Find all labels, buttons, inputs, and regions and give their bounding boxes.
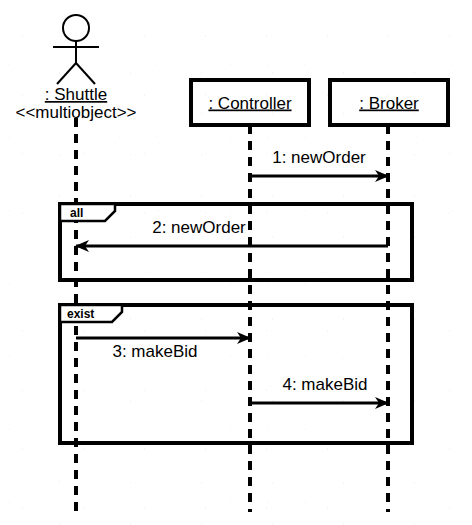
- participant-stereotype-shuttle: <<multiobject>>: [16, 103, 137, 122]
- fragment-label-all: all: [70, 206, 83, 220]
- participant-box-broker[interactable]: : Broker: [330, 80, 448, 125]
- message-label-3: 3: makeBid: [112, 342, 197, 361]
- message-label-2: 2: newOrder: [152, 218, 246, 237]
- fragment-label-exist: exist: [67, 307, 94, 321]
- participant-label-shuttle: : Shuttle: [45, 85, 107, 104]
- fragment-tab-all: [60, 204, 115, 221]
- diagram-canvas: : Shuttle <<multiobject>> : Controller :…: [0, 0, 472, 525]
- participant-box-controller[interactable]: : Controller: [191, 80, 309, 125]
- message-label-4: 4: makeBid: [282, 375, 367, 394]
- participant-label-broker: : Broker: [359, 94, 419, 113]
- participant-label-controller: : Controller: [208, 94, 291, 113]
- message-label-1: 1: newOrder: [272, 148, 366, 167]
- uml-sequence-diagram: : Shuttle <<multiobject>> : Controller :…: [0, 0, 472, 525]
